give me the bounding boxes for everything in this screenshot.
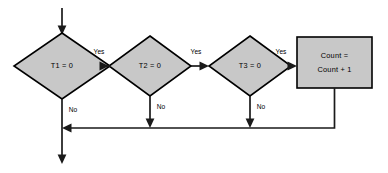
edge-no-t2: No xyxy=(146,96,166,128)
decision-node-t3[interactable]: T3 = 0 xyxy=(209,36,291,96)
edge-label-no-t1: No xyxy=(69,106,78,113)
process-node-count[interactable]: Count = Count + 1 xyxy=(297,37,372,88)
entry-arrow xyxy=(58,8,67,35)
process-count-label-line1: Count = xyxy=(321,51,349,60)
process-count-label-line2: Count + 1 xyxy=(317,65,351,74)
decision-t3-label: T3 = 0 xyxy=(239,61,261,70)
edge-no-t3: No xyxy=(246,96,266,128)
edge-label-yes-t2: Yes xyxy=(191,48,202,55)
edge-yes-t2-to-t3: Yes xyxy=(191,48,209,71)
decision-node-t1[interactable]: T1 = 0 xyxy=(14,33,110,99)
decision-t2-label: T2 = 0 xyxy=(139,61,161,70)
edge-no-t1: No xyxy=(62,99,78,128)
edge-label-no-t3: No xyxy=(257,103,266,110)
flowchart-canvas: T1 = 0 T2 = 0 T3 = 0 Count = Count + 1 Y… xyxy=(0,0,388,173)
edge-label-yes-t1: Yes xyxy=(94,48,105,55)
edge-label-no-t2: No xyxy=(157,103,166,110)
edge-label-yes-t3: Yes xyxy=(276,48,287,55)
exit-arrow xyxy=(58,128,67,164)
decision-t1-label: T1 = 0 xyxy=(51,61,73,70)
edge-count-return xyxy=(62,88,335,132)
decision-node-t2[interactable]: T2 = 0 xyxy=(109,36,191,96)
